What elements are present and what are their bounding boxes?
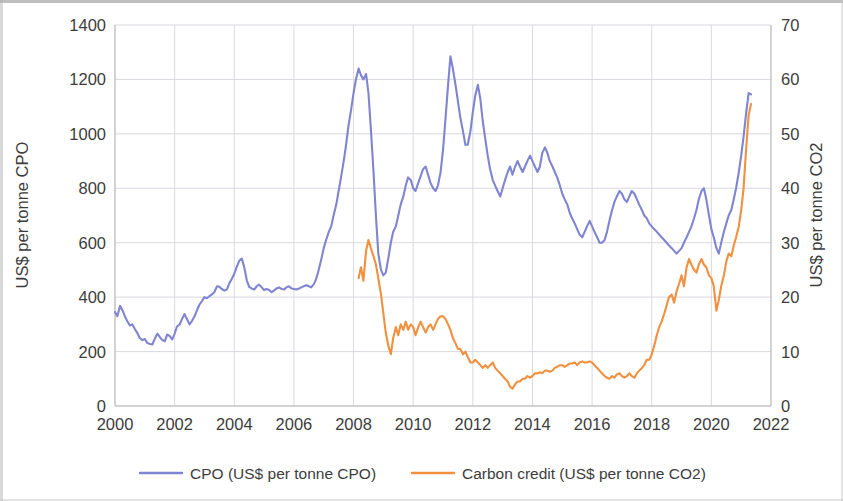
left-axis-tick-label: 1000 [69,125,106,143]
x-axis-tick-labels: 2000200220042006200820102012201420162018… [97,415,790,433]
legend-label: CPO (US$ per tonne CPO) [190,465,376,482]
x-axis-tick-label: 2020 [693,415,730,433]
left-axis-tick-label: 1200 [69,70,106,88]
right-axis-title: US$ per tonne CO2 [807,143,825,288]
chart-canvas: 0200400600800100012001400 01020304050607… [0,0,843,501]
left-axis-tick-label: 400 [78,288,106,306]
left-axis-tick-label: 1400 [69,16,106,34]
series-lines [115,56,751,388]
right-axis-tick-labels: 010203040506070 [781,16,799,415]
x-axis-tick-label: 2012 [454,415,491,433]
x-axis-tick-label: 2018 [633,415,670,433]
left-axis-tick-label: 200 [78,343,106,361]
dual-axis-line-chart: 0200400600800100012001400 01020304050607… [0,0,843,501]
chart-legend: CPO (US$ per tonne CPO)Carbon credit (US… [140,465,706,482]
x-axis-tick-label: 2004 [216,415,253,433]
left-axis-title: US$ per tonne CPO [13,141,31,288]
x-axis-tick-label: 2014 [514,415,551,433]
series-line-carbon [359,104,751,389]
left-axis-tick-labels: 0200400600800100012001400 [69,16,106,415]
left-axis-tick-label: 800 [78,179,106,197]
right-axis-tick-label: 0 [781,397,790,415]
right-axis-tick-label: 20 [781,288,799,306]
left-axis-tick-label: 600 [78,234,106,252]
x-axis-tick-label: 2016 [574,415,611,433]
x-axis-tick-label: 2000 [97,415,134,433]
x-axis-tick-label: 2006 [276,415,313,433]
x-axis-tick-label: 2002 [156,415,193,433]
series-line-cpo [115,56,751,344]
right-axis-tick-label: 10 [781,343,799,361]
x-axis-tick-label: 2008 [335,415,372,433]
x-axis-tick-label: 2010 [395,415,432,433]
right-axis-tick-label: 30 [781,234,799,252]
gridlines [115,25,771,406]
right-axis-tick-label: 50 [781,125,799,143]
plot-area-border [115,25,771,406]
right-axis-tick-label: 60 [781,70,799,88]
right-axis-tick-label: 40 [781,179,799,197]
right-axis-tick-label: 70 [781,16,799,34]
legend-label: Carbon credit (US$ per tonne CO2) [462,465,706,482]
x-axis-tick-label: 2022 [753,415,790,433]
left-axis-tick-label: 0 [97,397,106,415]
